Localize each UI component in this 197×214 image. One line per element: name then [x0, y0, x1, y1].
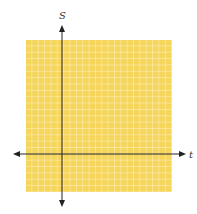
s-axis-label: S [59, 10, 66, 21]
grid-area [26, 40, 172, 192]
right-arrow-icon [179, 151, 186, 157]
coordinate-grid: S t [0, 0, 197, 214]
down-arrow-icon [59, 200, 65, 207]
up-arrow-icon [59, 25, 65, 32]
t-axis-label: t [189, 149, 194, 160]
left-arrow-icon [13, 151, 20, 157]
